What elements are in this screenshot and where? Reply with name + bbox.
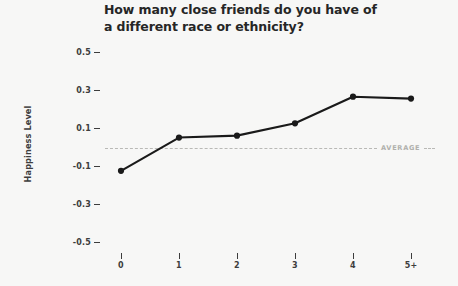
data-point-marker: [118, 168, 124, 174]
chart-container: How many close friends do you have of a …: [0, 0, 458, 286]
data-marker-group: [118, 94, 414, 174]
line-plot: [0, 0, 458, 286]
data-point-marker: [234, 133, 240, 139]
data-point-marker: [292, 120, 298, 126]
data-line: [121, 97, 411, 171]
data-point-marker: [176, 134, 182, 140]
data-point-marker: [350, 94, 356, 100]
data-point-marker: [408, 96, 414, 102]
